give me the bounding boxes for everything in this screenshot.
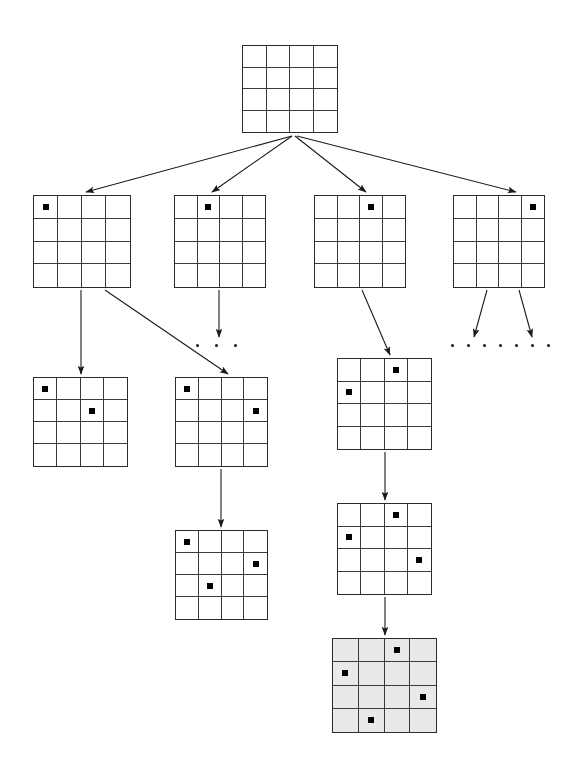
board-cell[interactable] bbox=[522, 196, 545, 219]
board-cell[interactable] bbox=[290, 46, 314, 68]
board-cell[interactable] bbox=[290, 89, 314, 111]
board-cell[interactable] bbox=[385, 404, 408, 427]
board-cell[interactable] bbox=[222, 553, 245, 575]
board-cell[interactable] bbox=[499, 264, 522, 287]
board-cell[interactable] bbox=[104, 378, 127, 400]
board-cell[interactable] bbox=[198, 196, 221, 219]
board-cell[interactable] bbox=[199, 444, 222, 466]
level2-board-right[interactable] bbox=[337, 358, 432, 450]
board-cell[interactable] bbox=[359, 686, 385, 709]
board-cell[interactable] bbox=[410, 639, 436, 662]
board-cell[interactable] bbox=[385, 427, 408, 450]
board-cell[interactable] bbox=[477, 196, 500, 219]
board-cell[interactable] bbox=[360, 196, 383, 219]
board-cell[interactable] bbox=[408, 404, 431, 427]
board-cell[interactable] bbox=[244, 553, 267, 575]
board-cell[interactable] bbox=[175, 219, 198, 242]
board-cell[interactable] bbox=[82, 242, 106, 265]
board-cell[interactable] bbox=[385, 639, 411, 662]
board-cell[interactable] bbox=[176, 378, 199, 400]
board-cell[interactable] bbox=[333, 709, 359, 732]
board-cell[interactable] bbox=[361, 527, 384, 550]
level1-queen-col2[interactable] bbox=[314, 195, 406, 288]
board-cell[interactable] bbox=[243, 264, 266, 287]
board-cell[interactable] bbox=[57, 444, 80, 466]
level2-board-middle[interactable] bbox=[175, 377, 268, 467]
board-cell[interactable] bbox=[361, 359, 384, 382]
board-cell[interactable] bbox=[198, 242, 221, 265]
level2-board-left[interactable] bbox=[33, 377, 128, 467]
board-cell[interactable] bbox=[58, 264, 82, 287]
board-cell[interactable] bbox=[222, 378, 245, 400]
board-cell[interactable] bbox=[408, 382, 431, 405]
board-cell[interactable] bbox=[385, 359, 408, 382]
board-cell[interactable] bbox=[34, 242, 58, 265]
level3-board-middle[interactable] bbox=[175, 530, 268, 620]
board-cell[interactable] bbox=[385, 572, 408, 595]
board-cell[interactable] bbox=[385, 686, 411, 709]
board-cell[interactable] bbox=[338, 504, 361, 527]
board-cell[interactable] bbox=[104, 444, 127, 466]
board-cell[interactable] bbox=[58, 196, 82, 219]
board-cell[interactable] bbox=[199, 400, 222, 422]
board-cell[interactable] bbox=[34, 400, 57, 422]
level1-queen-col0[interactable] bbox=[33, 195, 131, 288]
board-cell[interactable] bbox=[244, 444, 267, 466]
board-cell[interactable] bbox=[454, 242, 477, 265]
board-cell[interactable] bbox=[338, 572, 361, 595]
board-cell[interactable] bbox=[175, 264, 198, 287]
board-cell[interactable] bbox=[220, 196, 243, 219]
board-cell[interactable] bbox=[338, 527, 361, 550]
board-cell[interactable] bbox=[34, 378, 57, 400]
board-cell[interactable] bbox=[477, 242, 500, 265]
board-cell[interactable] bbox=[34, 196, 58, 219]
board-cell[interactable] bbox=[243, 111, 267, 133]
board-cell[interactable] bbox=[338, 264, 361, 287]
level3-board-right[interactable] bbox=[337, 503, 432, 595]
board-cell[interactable] bbox=[243, 68, 267, 90]
board-cell[interactable] bbox=[58, 219, 82, 242]
board-cell[interactable] bbox=[333, 639, 359, 662]
board-cell[interactable] bbox=[58, 242, 82, 265]
board-cell[interactable] bbox=[243, 242, 266, 265]
board-cell[interactable] bbox=[499, 242, 522, 265]
board-cell[interactable] bbox=[383, 264, 406, 287]
board-cell[interactable] bbox=[222, 422, 245, 444]
board-cell[interactable] bbox=[408, 572, 431, 595]
board-cell[interactable] bbox=[454, 196, 477, 219]
board-cell[interactable] bbox=[315, 219, 338, 242]
board-cell[interactable] bbox=[314, 111, 338, 133]
level1-queen-col3[interactable] bbox=[453, 195, 545, 288]
board-cell[interactable] bbox=[222, 575, 245, 597]
board-cell[interactable] bbox=[315, 242, 338, 265]
board-cell[interactable] bbox=[34, 219, 58, 242]
board-cell[interactable] bbox=[499, 196, 522, 219]
board-cell[interactable] bbox=[106, 219, 130, 242]
board-cell[interactable] bbox=[106, 264, 130, 287]
board-cell[interactable] bbox=[454, 264, 477, 287]
board-cell[interactable] bbox=[385, 382, 408, 405]
board-cell[interactable] bbox=[477, 264, 500, 287]
board-cell[interactable] bbox=[222, 597, 245, 619]
board-cell[interactable] bbox=[176, 444, 199, 466]
board-cell[interactable] bbox=[338, 242, 361, 265]
board-cell[interactable] bbox=[82, 219, 106, 242]
board-cell[interactable] bbox=[199, 553, 222, 575]
board-cell[interactable] bbox=[410, 662, 436, 685]
board-cell[interactable] bbox=[361, 572, 384, 595]
root-empty-board[interactable] bbox=[242, 45, 338, 133]
board-cell[interactable] bbox=[267, 89, 291, 111]
board-cell[interactable] bbox=[385, 549, 408, 572]
board-cell[interactable] bbox=[57, 400, 80, 422]
board-cell[interactable] bbox=[408, 527, 431, 550]
board-cell[interactable] bbox=[198, 264, 221, 287]
board-cell[interactable] bbox=[359, 709, 385, 732]
board-cell[interactable] bbox=[176, 597, 199, 619]
board-cell[interactable] bbox=[359, 639, 385, 662]
board-cell[interactable] bbox=[522, 219, 545, 242]
board-cell[interactable] bbox=[199, 378, 222, 400]
board-cell[interactable] bbox=[243, 219, 266, 242]
board-cell[interactable] bbox=[222, 531, 245, 553]
board-cell[interactable] bbox=[81, 378, 104, 400]
board-cell[interactable] bbox=[176, 575, 199, 597]
